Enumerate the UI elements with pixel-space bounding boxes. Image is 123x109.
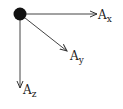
label-ax: Ax [97,8,112,24]
label-ay: Ay [69,49,85,65]
origin-point [14,8,27,21]
label-az: Az [22,83,37,99]
vector-diagram: Ax Ay Az [0,0,123,109]
vector-y-arrow [20,14,67,51]
